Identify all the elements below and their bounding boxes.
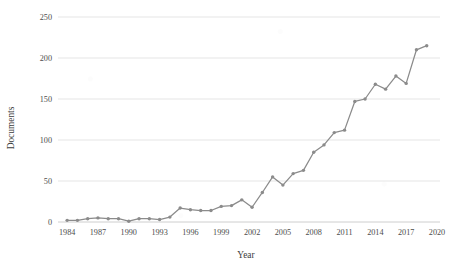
- x-tick-label: 1990: [121, 228, 137, 237]
- y-tick-label: 150: [40, 95, 52, 104]
- data-point: [209, 209, 212, 212]
- data-point: [343, 128, 346, 131]
- data-point: [178, 206, 181, 209]
- data-point: [168, 215, 171, 218]
- data-point: [86, 217, 89, 220]
- x-tick-label: 1996: [182, 228, 198, 237]
- data-point: [353, 100, 356, 103]
- documents-per-year-line-chart: 050100150200250 198419871990199319961999…: [0, 0, 452, 263]
- data-point: [65, 219, 68, 222]
- data-point: [291, 172, 294, 175]
- data-point: [374, 83, 377, 86]
- x-tick-label: 1993: [151, 228, 167, 237]
- y-tick-label: 250: [40, 13, 52, 22]
- data-point: [250, 206, 253, 209]
- data-point: [271, 175, 274, 178]
- x-tick-label: 2014: [367, 228, 383, 237]
- x-axis-tick-labels: 1984198719901993199619992002200520082011…: [59, 228, 445, 237]
- x-tick-label: 1999: [213, 228, 229, 237]
- data-point: [333, 131, 336, 134]
- y-tick-label: 0: [48, 218, 52, 227]
- data-point: [199, 209, 202, 212]
- data-point: [415, 48, 418, 51]
- y-axis-title: Documents: [6, 106, 16, 149]
- data-point: [220, 205, 223, 208]
- data-point: [96, 216, 99, 219]
- x-tick-label: 2005: [275, 228, 291, 237]
- x-axis-title: Year: [237, 250, 255, 260]
- x-tick-label: 2002: [244, 228, 260, 237]
- x-tick-label: 2008: [306, 228, 322, 237]
- x-tick-label: 2017: [398, 228, 414, 237]
- data-point: [302, 169, 305, 172]
- data-point: [230, 204, 233, 207]
- data-point: [148, 217, 151, 220]
- data-point: [107, 217, 110, 220]
- series-markers-documents: [65, 44, 428, 223]
- data-point: [404, 82, 407, 85]
- series-line-documents: [67, 46, 427, 221]
- data-point: [158, 218, 161, 221]
- data-point: [394, 74, 397, 77]
- x-tick-label: 1987: [90, 228, 106, 237]
- data-point: [281, 183, 284, 186]
- y-tick-label: 200: [40, 54, 52, 63]
- data-point: [240, 198, 243, 201]
- data-point: [117, 217, 120, 220]
- data-point: [384, 87, 387, 90]
- data-point: [322, 143, 325, 146]
- data-point: [127, 219, 130, 222]
- data-point: [137, 217, 140, 220]
- y-axis-tick-labels: 050100150200250: [40, 13, 52, 227]
- x-tick-label: 1984: [59, 228, 75, 237]
- y-tick-label: 100: [40, 136, 52, 145]
- data-point: [363, 97, 366, 100]
- y-tick-label: 50: [44, 177, 52, 186]
- x-tick-label: 2011: [336, 228, 352, 237]
- series-documents: [65, 44, 428, 223]
- data-point: [261, 191, 264, 194]
- data-point: [425, 44, 428, 47]
- data-point: [312, 151, 315, 154]
- chart-canvas: 050100150200250 198419871990199319961999…: [0, 0, 452, 263]
- data-point: [189, 208, 192, 211]
- data-point: [76, 219, 79, 222]
- gridlines-group: [58, 17, 440, 222]
- x-tick-label: 2020: [429, 228, 445, 237]
